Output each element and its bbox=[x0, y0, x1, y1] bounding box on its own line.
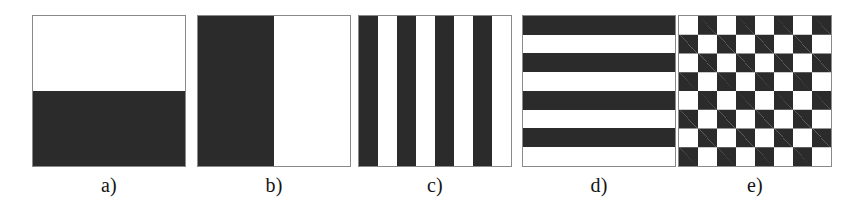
panel-caption-b: b) bbox=[197, 172, 351, 198]
pattern-panel-e bbox=[678, 15, 832, 167]
pattern-swatch-vertical-half-split bbox=[198, 16, 350, 166]
panel-caption-c: c) bbox=[358, 172, 512, 198]
panel-caption-e: e) bbox=[678, 172, 832, 198]
pattern-swatch-horizontal-stripes bbox=[523, 16, 675, 166]
panel-caption-d: d) bbox=[522, 172, 676, 198]
pattern-swatch-vertical-stripes bbox=[359, 16, 511, 166]
pattern-swatch-horizontal-half-split bbox=[33, 16, 185, 166]
pattern-panel-d bbox=[522, 15, 676, 167]
pattern-panel-c bbox=[358, 15, 512, 167]
pattern-figure: a) b) c) d) e) bbox=[0, 0, 855, 216]
pattern-panel-a bbox=[32, 15, 186, 167]
panel-caption-a: a) bbox=[32, 172, 186, 198]
pattern-panel-b bbox=[197, 15, 351, 167]
pattern-swatch-checkerboard bbox=[679, 16, 831, 166]
